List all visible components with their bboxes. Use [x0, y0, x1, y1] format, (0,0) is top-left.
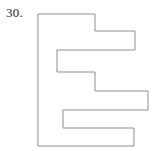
e-shaped-polygon: [38, 14, 148, 146]
shape-canvas: [0, 0, 162, 151]
figure-container: 30.: [0, 0, 162, 151]
